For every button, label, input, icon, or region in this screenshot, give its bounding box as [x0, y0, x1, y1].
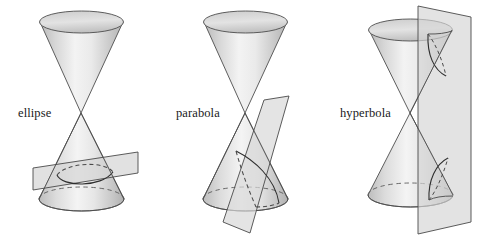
panel-parabola: parabola [176, 11, 289, 233]
label-ellipse: ellipse [18, 106, 52, 120]
conic-sections-figure: ellipse parabola [0, 0, 478, 245]
parabola-top-cap [204, 11, 288, 33]
label-parabola: parabola [176, 106, 220, 120]
panel-ellipse: ellipse [18, 11, 138, 211]
label-hyperbola: hyperbola [340, 106, 391, 120]
panel-hyperbola: hyperbola [340, 6, 471, 234]
ellipse-top-cap [40, 11, 124, 33]
hyperbola-cutting-plane [418, 6, 471, 234]
conic-sections-svg: ellipse parabola [0, 0, 478, 245]
